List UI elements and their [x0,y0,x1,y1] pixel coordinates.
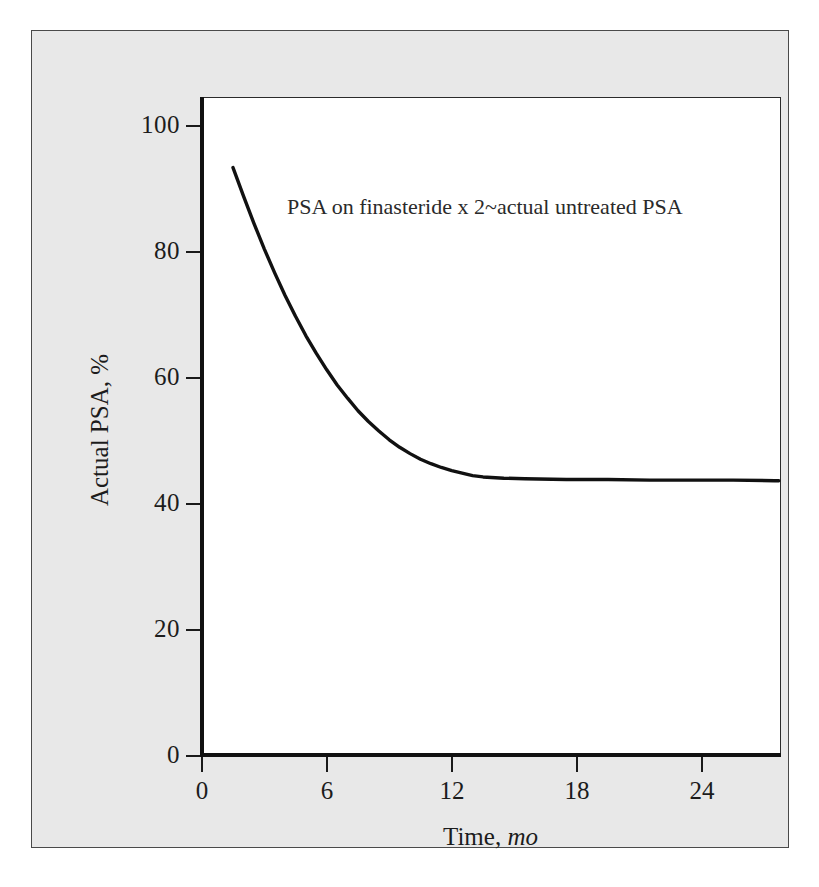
x-tick-label-18: 18 [537,777,617,805]
y-tick-label-0: 0 [92,741,180,769]
y-tick-label-20: 20 [92,615,180,643]
x-axis-title-unit: mo [507,823,538,850]
y-tick-label-100: 100 [92,111,180,139]
x-tick-0 [201,757,203,772]
x-tick-label-6: 6 [287,777,367,805]
x-tick-label-0: 0 [162,777,242,805]
figure-panel: 100 80 60 40 20 0 0 6 12 18 24 Actual PS… [31,30,789,848]
y-tick-100 [186,125,200,127]
figure-container: 100 80 60 40 20 0 0 6 12 18 24 Actual PS… [0,0,819,887]
y-tick-20 [186,629,200,631]
y-tick-0 [186,755,200,757]
x-tick-18 [576,757,578,772]
x-tick-24 [701,757,703,772]
x-tick-label-12: 12 [412,777,492,805]
x-axis-title-main: Time, [443,823,507,850]
x-tick-label-24: 24 [662,777,742,805]
y-axis-line [200,97,204,757]
x-axis-line [200,753,781,757]
y-tick-40 [186,503,200,505]
plot-annotation: PSA on finasteride x 2~actual untreated … [287,194,683,220]
y-tick-label-80: 80 [92,237,180,265]
x-tick-6 [326,757,328,772]
x-tick-12 [451,757,453,772]
y-tick-80 [186,251,200,253]
y-axis-title: Actual PSA, % [86,300,114,560]
x-axis-title: Time, mo [200,823,781,851]
y-tick-60 [186,377,200,379]
